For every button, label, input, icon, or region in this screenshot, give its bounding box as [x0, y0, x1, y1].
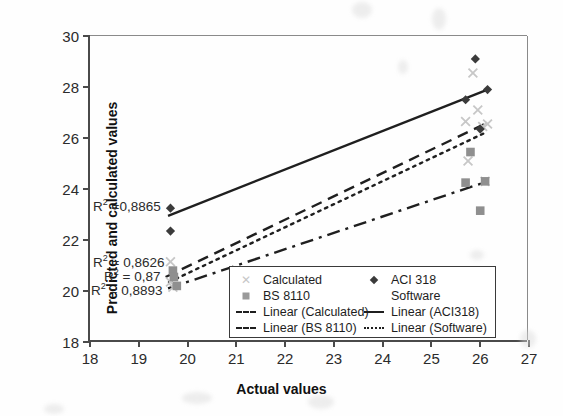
y-tick — [83, 290, 90, 292]
chart-legend: ✕CalculatedACI 318BS 8110SoftwareLinear … — [229, 266, 496, 338]
legend-item-linear-software-[interactable]: Linear (Software) — [364, 322, 489, 335]
trendline-dotted — [169, 132, 488, 282]
chart-figure: Predicted and calculated values Actual v… — [0, 0, 563, 416]
data-point-aci-318 — [483, 85, 492, 94]
x-tick-label: 27 — [521, 350, 538, 367]
trendline-dashed — [166, 123, 488, 277]
scan-speckle — [44, 404, 64, 414]
legend-item-linear-calculated-[interactable]: Linear (Calculated) — [236, 306, 358, 319]
legend-item-aci-318[interactable]: ACI 318 — [364, 274, 489, 287]
data-point-calculated — [166, 257, 175, 266]
y-tick-label: 24 — [62, 181, 79, 198]
x-tick-label: 22 — [277, 350, 294, 367]
dash-dot-line-icon — [236, 322, 256, 334]
scan-speckle — [308, 395, 334, 409]
data-point-bs-8110 — [461, 178, 470, 187]
x-tick-label: 25 — [423, 350, 440, 367]
r2-label-aci318: R2 =0,8865 — [93, 197, 161, 214]
y-tick-label: 28 — [62, 79, 79, 96]
square-marker-icon — [236, 290, 256, 302]
legend-label: ACI 318 — [391, 274, 436, 287]
y-tick-label: 18 — [62, 334, 79, 351]
blank-marker-icon — [364, 290, 384, 302]
y-tick-label: 30 — [62, 28, 79, 45]
data-point-bs-8110 — [173, 282, 182, 291]
y-tick-label: 22 — [62, 232, 79, 249]
y-tick-label: 20 — [62, 283, 79, 300]
data-point-calculated — [469, 69, 478, 78]
x-tick-label: 21 — [228, 350, 245, 367]
legend-label: BS 8110 — [263, 290, 310, 303]
dashed-line-icon — [236, 306, 256, 318]
diamond-marker-icon — [364, 274, 384, 286]
data-point-calculated — [464, 157, 473, 166]
legend-label: Software — [391, 290, 440, 303]
legend-item-bs-8110[interactable]: BS 8110 — [236, 290, 358, 303]
solid-line-icon — [364, 306, 384, 318]
legend-item-calculated[interactable]: ✕Calculated — [236, 274, 358, 287]
x-tick-label: 23 — [326, 350, 343, 367]
data-point-bs-8110 — [170, 273, 179, 282]
y-tick — [83, 86, 90, 88]
legend-label: Linear (ACI318) — [391, 306, 479, 319]
legend-label: Calculated — [263, 274, 322, 287]
data-point-bs-8110 — [476, 206, 485, 215]
x-tick-label: 18 — [82, 350, 99, 367]
legend-item-software[interactable]: Software — [364, 290, 489, 303]
x-tick-label: 26 — [472, 350, 489, 367]
scan-speckle — [352, 2, 372, 18]
x-marker-icon: ✕ — [236, 274, 256, 286]
legend-item-linear-aci318-[interactable]: Linear (ACI318) — [364, 306, 489, 319]
legend-item-linear-bs-8110-[interactable]: Linear (BS 8110) — [236, 322, 358, 335]
y-tick — [83, 137, 90, 139]
dotted-line-icon — [364, 322, 384, 334]
scan-speckle — [432, 8, 446, 30]
r2-label-bs8110: R2 = 0,8893 — [91, 281, 162, 298]
data-point-aci-318 — [166, 226, 175, 235]
y-tick — [83, 188, 90, 190]
x-tick-label: 19 — [130, 350, 147, 367]
data-point-bs-8110 — [466, 148, 475, 157]
data-point-aci-318 — [166, 204, 175, 213]
y-tick — [83, 35, 90, 37]
data-point-bs-8110 — [481, 177, 490, 186]
data-point-aci-318 — [471, 54, 480, 63]
data-point-calculated — [461, 117, 470, 126]
legend-label: Linear (Calculated) — [263, 306, 369, 319]
y-tick — [83, 239, 90, 241]
data-point-calculated — [473, 106, 482, 115]
y-tick-label: 26 — [62, 130, 79, 147]
x-tick-label: 20 — [179, 350, 196, 367]
x-tick-label: 24 — [374, 350, 391, 367]
x-axis-title: Actual values — [0, 381, 563, 397]
legend-label: Linear (Software) — [391, 322, 487, 335]
legend-label: Linear (BS 8110) — [263, 322, 357, 335]
